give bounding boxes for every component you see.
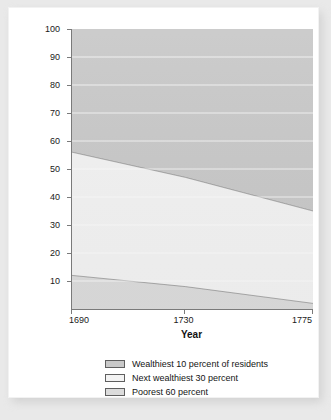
stacked-area-svg (72, 29, 313, 309)
legend-item: Poorest 60 percent (105, 385, 305, 398)
figure-card: Share of total taxable wealth (percentag… (8, 7, 319, 398)
paper-texture-overlay (72, 29, 313, 309)
legend-swatch (105, 360, 125, 368)
legend: Wealthiest 10 percent of residentsNext w… (105, 357, 305, 399)
chart: Share of total taxable wealth (percentag… (63, 29, 312, 316)
legend-label: Wealthiest 10 percent of residents (132, 359, 268, 369)
page-background: Share of total taxable wealth (percentag… (0, 0, 331, 420)
x-tick-mark (71, 310, 72, 314)
y-tick-label: 80 (20, 81, 60, 90)
x-tick-label: 1690 (69, 315, 89, 325)
x-tick-label: 1775 (292, 315, 312, 325)
x-axis-title: Year (71, 329, 312, 340)
x-tick-mark (312, 310, 313, 314)
legend-item: Wealthiest 10 percent of residents (105, 357, 305, 370)
legend-label: Poorest 60 percent (132, 387, 208, 397)
x-tick-label: 1730 (173, 315, 193, 325)
legend-item: Next wealthiest 30 percent (105, 371, 305, 384)
legend-swatch (105, 388, 125, 396)
y-tick-label: 50 (20, 165, 60, 174)
y-tick-label: 20 (20, 249, 60, 258)
y-tick-label: 30 (20, 221, 60, 230)
legend-swatch (105, 374, 125, 382)
legend-label: Next wealthiest 30 percent (132, 373, 238, 383)
y-tick-label: 90 (20, 53, 60, 62)
plot-area (71, 29, 313, 310)
y-tick-label: 60 (20, 137, 60, 146)
y-tick-label: 10 (20, 277, 60, 286)
y-tick-label: 70 (20, 109, 60, 118)
x-tick-mark (184, 310, 185, 314)
y-tick-label: 100 (20, 25, 60, 34)
y-tick-label: 40 (20, 193, 60, 202)
